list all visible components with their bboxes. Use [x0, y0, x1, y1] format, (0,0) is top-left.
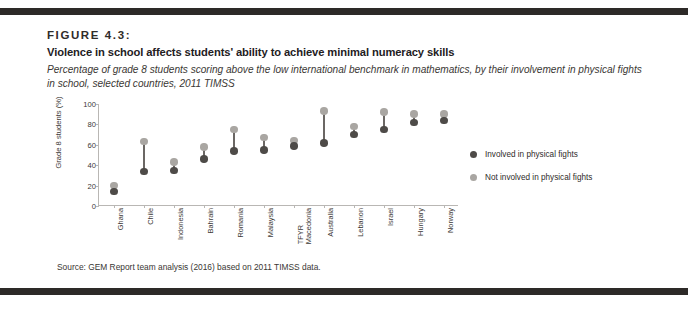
- data-column: Malaysia: [249, 104, 279, 205]
- data-point-involved: [140, 168, 148, 176]
- y-tick-label: 60: [74, 140, 96, 149]
- top-rule: [0, 8, 688, 15]
- x-tick-mark: [234, 205, 235, 208]
- connector-line: [143, 142, 145, 172]
- data-point-not-involved: [170, 158, 178, 166]
- data-point-not-involved: [410, 110, 418, 118]
- x-tick-mark: [144, 205, 145, 208]
- data-point-involved: [260, 146, 268, 154]
- data-point-not-involved: [260, 134, 268, 142]
- legend-label: Not involved in physical fights: [485, 173, 592, 182]
- data-column: Norway: [429, 104, 459, 205]
- x-tick-mark: [264, 205, 265, 208]
- data-point-involved: [290, 142, 298, 150]
- y-axis-ticks: 020406080100: [60, 104, 96, 206]
- data-column: Chile: [129, 104, 159, 205]
- y-tick-label: 0: [74, 202, 96, 211]
- x-tick-label: Australia: [327, 208, 335, 237]
- data-point-involved: [200, 155, 208, 163]
- data-column: Ghana: [99, 104, 129, 205]
- data-point-involved: [440, 117, 448, 125]
- x-tick-mark: [174, 205, 175, 208]
- x-tick-mark: [324, 205, 325, 208]
- x-tick-label: Israel: [387, 208, 395, 226]
- y-tick-label: 40: [74, 161, 96, 170]
- plot-area: GhanaChileIndonesiaBahrainRomaniaMalaysi…: [98, 104, 458, 206]
- chart: Grade 8 students (%) 020406080100 GhanaC…: [60, 104, 460, 222]
- data-point-not-involved: [380, 108, 388, 116]
- y-tick-label: 80: [74, 120, 96, 129]
- y-tick-mark: [96, 206, 99, 207]
- chart-legend: Involved in physical fightsNot involved …: [470, 150, 592, 196]
- x-tick-label: Romania: [237, 208, 245, 238]
- x-tick-mark: [114, 205, 115, 208]
- figure-title: Violence in school affects students' abi…: [47, 46, 454, 58]
- y-tick-label: 100: [74, 100, 96, 109]
- data-point-involved: [170, 167, 178, 175]
- legend-label: Involved in physical fights: [485, 150, 578, 159]
- data-point-not-involved: [230, 126, 238, 134]
- figure-number: FIGURE 4.3:: [47, 29, 131, 41]
- x-tick-label: Malaysia: [267, 208, 275, 237]
- data-point-involved: [320, 139, 328, 147]
- figure-subtitle: Percentage of grade 8 students scoring a…: [47, 63, 647, 90]
- x-tick-mark: [294, 205, 295, 208]
- data-point-involved: [410, 119, 418, 127]
- data-point-not-involved: [350, 123, 358, 131]
- legend-item: Involved in physical fights: [470, 150, 592, 159]
- x-tick-label: Indonesia: [177, 208, 185, 240]
- data-point-not-involved: [320, 107, 328, 115]
- legend-item: Not involved in physical fights: [470, 173, 592, 182]
- data-column: Lebanon: [339, 104, 369, 205]
- data-column: Bahrain: [189, 104, 219, 205]
- figure-source: Source: GEM Report team analysis (2016) …: [57, 262, 321, 272]
- data-point-not-involved: [140, 138, 148, 146]
- x-tick-label: Ghana: [117, 208, 125, 230]
- legend-dot-icon: [470, 174, 477, 181]
- x-tick-mark: [444, 205, 445, 208]
- data-point-not-involved: [200, 143, 208, 151]
- data-column: Israel: [369, 104, 399, 205]
- legend-dot-icon: [470, 151, 477, 158]
- connector-line: [323, 111, 325, 143]
- data-column: Indonesia: [159, 104, 189, 205]
- x-tick-mark: [204, 205, 205, 208]
- data-column: TFYRMacedonia: [279, 104, 309, 205]
- data-column: Romania: [219, 104, 249, 205]
- x-tick-label: Bahrain: [207, 208, 215, 233]
- x-tick-label: TFYRMacedonia: [297, 208, 314, 244]
- x-tick-mark: [384, 205, 385, 208]
- y-tick-label: 20: [74, 181, 96, 190]
- data-point-involved: [380, 126, 388, 134]
- data-column: Hungary: [399, 104, 429, 205]
- x-tick-label: Hungary: [417, 208, 425, 236]
- data-point-involved: [110, 188, 118, 196]
- figure-page: FIGURE 4.3: Violence in school affects s…: [0, 0, 688, 312]
- data-point-involved: [350, 131, 358, 139]
- data-column: Australia: [309, 104, 339, 205]
- x-tick-label: Norway: [447, 208, 455, 233]
- x-tick-label: Chile: [147, 208, 155, 225]
- x-tick-label: Lebanon: [357, 208, 365, 237]
- x-tick-mark: [414, 205, 415, 208]
- bottom-rule: [0, 288, 688, 295]
- x-tick-mark: [354, 205, 355, 208]
- data-point-involved: [230, 147, 238, 155]
